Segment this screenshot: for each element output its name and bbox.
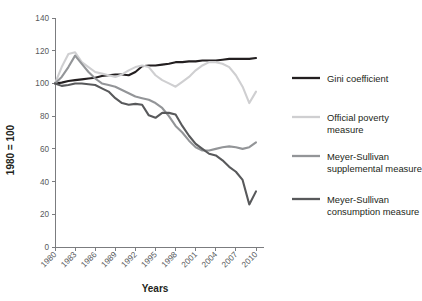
legend-label-2: measure: [327, 124, 363, 135]
y-axis: 020406080100120140: [35, 14, 55, 252]
x-axis-tick-label: 1986: [79, 250, 99, 270]
y-axis-tick-label: 140: [35, 14, 49, 23]
legend-label-2: Official poverty: [327, 112, 389, 123]
line-chart: 020406080100120140 198019831986198919921…: [0, 0, 422, 301]
legend-label-4: Meyer-Sullivan: [327, 194, 389, 205]
series-line-4: [55, 83, 256, 204]
y-axis-tick-label: 80: [40, 112, 50, 121]
x-axis-tick-label: 1983: [59, 250, 79, 270]
x-axis: 1980198319861989199219951998200120042007…: [39, 247, 264, 269]
y-axis-tick-label: 120: [35, 47, 49, 56]
x-axis-tick-label: 2004: [200, 250, 220, 270]
legend-label-1: Gini coefficient: [327, 73, 389, 84]
legend-label-3: supplemental measure: [327, 163, 422, 174]
x-axis-tick-label: 1989: [99, 250, 119, 270]
legend-label-3: Meyer-Sullivan: [327, 151, 389, 162]
x-axis-tick-label: 1998: [160, 250, 180, 270]
y-axis-tick-label: 100: [35, 79, 49, 88]
x-axis-tick-label: 1992: [120, 250, 140, 270]
data-series-group: [55, 52, 256, 204]
y-axis-tick-label: 40: [40, 178, 50, 187]
series-line-1: [55, 58, 256, 83]
series-line-3: [55, 56, 256, 151]
x-axis-tick-label: 2007: [220, 250, 240, 270]
y-axis-tick-label: 0: [44, 243, 49, 252]
y-axis-tick-label: 60: [40, 145, 50, 154]
chart-legend: Gini coefficientOfficial povertymeasureM…: [292, 73, 422, 217]
chart-figure: 020406080100120140 198019831986198919921…: [0, 0, 422, 301]
y-axis-title: 1980 = 100: [5, 124, 16, 175]
x-axis-tick-label: 1980: [39, 250, 59, 270]
x-axis-title: Years: [142, 283, 169, 294]
x-axis-tick-label: 2001: [180, 250, 200, 270]
x-axis-tick-label: 2010: [240, 250, 260, 270]
y-axis-tick-label: 20: [40, 210, 50, 219]
legend-label-4: consumption measure: [327, 206, 419, 217]
x-axis-tick-label: 1995: [140, 250, 160, 270]
